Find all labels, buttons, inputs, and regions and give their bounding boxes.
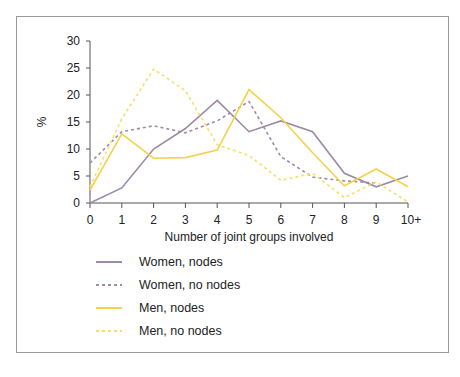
legend: Women, nodes Women, no nodes Men, nodes …	[96, 250, 240, 342]
y-axis-label: %	[35, 116, 49, 127]
legend-label: Women, nodes	[139, 255, 223, 269]
y-tick-label: 25	[67, 61, 81, 75]
legend-label: Men, nodes	[139, 301, 204, 315]
x-tick-label: 1	[118, 213, 125, 227]
series-line-women-nodes	[90, 100, 408, 203]
x-tick-label: 6	[277, 213, 284, 227]
axes: 051015202530012345678910+	[67, 34, 422, 227]
x-axis-label: Number of joint groups involved	[165, 230, 334, 244]
x-tick-label: 8	[341, 213, 348, 227]
legend-item-men-no-nodes: Men, no nodes	[96, 319, 240, 342]
y-tick-label: 20	[67, 88, 81, 102]
solid-line-swatch-icon	[96, 307, 122, 309]
y-tick-label: 30	[67, 34, 81, 48]
dashed-line-swatch-icon	[96, 330, 122, 332]
legend-item-men-nodes: Men, nodes	[96, 296, 240, 319]
y-tick-label: 5	[73, 169, 80, 183]
x-tick-label: 4	[214, 213, 221, 227]
x-tick-label: 5	[246, 213, 253, 227]
series-lines	[90, 69, 408, 203]
legend-label: Women, no nodes	[139, 278, 240, 292]
dashed-line-swatch-icon	[96, 284, 122, 286]
legend-label: Men, no nodes	[139, 324, 222, 338]
x-tick-label: 0	[87, 213, 94, 227]
y-tick-label: 15	[67, 115, 81, 129]
legend-item-women-nodes: Women, nodes	[96, 250, 240, 273]
y-tick-label: 10	[67, 142, 81, 156]
legend-item-women-no-nodes: Women, no nodes	[96, 273, 240, 296]
x-tick-label: 3	[182, 213, 189, 227]
y-tick-label: 0	[73, 196, 80, 210]
x-tick-label: 9	[373, 213, 380, 227]
x-tick-label: 2	[150, 213, 157, 227]
series-line-men-nodes	[90, 90, 408, 190]
x-tick-label: 10+	[401, 213, 421, 227]
solid-line-swatch-icon	[96, 261, 122, 263]
x-tick-label: 7	[309, 213, 316, 227]
